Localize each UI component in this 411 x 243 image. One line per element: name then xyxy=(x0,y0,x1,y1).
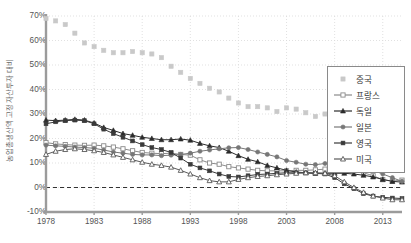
data-point xyxy=(111,145,115,149)
data-point xyxy=(313,114,317,118)
data-point xyxy=(140,153,144,157)
data-point xyxy=(121,147,125,151)
data-point xyxy=(82,41,86,45)
data-point xyxy=(83,119,87,123)
data-point xyxy=(169,64,173,68)
data-point xyxy=(111,51,115,55)
data-point xyxy=(150,52,154,56)
data-point xyxy=(159,163,164,168)
chart-legend[interactable]: 중국프랑스독일일본영국미국 xyxy=(327,66,405,173)
data-point xyxy=(159,154,163,158)
data-point xyxy=(54,19,58,23)
legend-marker-icon xyxy=(332,152,354,166)
data-point xyxy=(160,148,164,152)
data-point xyxy=(179,152,183,156)
data-point xyxy=(217,147,221,151)
data-point xyxy=(227,96,231,100)
data-point xyxy=(246,105,250,109)
data-point xyxy=(284,158,288,162)
data-point xyxy=(120,155,125,160)
data-point xyxy=(63,119,67,123)
data-point xyxy=(341,93,345,97)
legend-label: 중국 xyxy=(354,73,372,85)
data-point xyxy=(188,171,193,176)
legend-item-영국[interactable]: 영국 xyxy=(332,135,401,151)
data-point xyxy=(207,161,211,165)
data-point xyxy=(256,105,260,109)
data-point xyxy=(275,155,279,159)
data-point xyxy=(304,162,308,166)
data-point xyxy=(217,179,222,184)
data-point xyxy=(294,107,298,111)
data-point xyxy=(54,120,58,124)
data-point xyxy=(208,169,212,173)
data-point xyxy=(44,16,48,20)
data-point xyxy=(265,106,269,110)
legend-item-독일[interactable]: 독일 xyxy=(332,103,401,119)
legend-label: 독일 xyxy=(354,105,372,117)
legend-marker-icon xyxy=(332,136,354,150)
data-point xyxy=(227,175,231,179)
data-point xyxy=(92,122,96,126)
legend-item-미국[interactable]: 미국 xyxy=(332,151,401,167)
data-point xyxy=(236,101,240,105)
data-point xyxy=(150,153,154,157)
legend-item-일본[interactable]: 일본 xyxy=(332,119,401,135)
data-point xyxy=(130,49,134,53)
data-point xyxy=(236,166,240,170)
data-point xyxy=(140,51,144,55)
legend-label: 미국 xyxy=(354,153,372,165)
data-point xyxy=(179,70,183,74)
legend-label: 프랑스 xyxy=(354,89,380,101)
data-point xyxy=(207,86,211,90)
legend-item-중국[interactable]: 중국 xyxy=(332,71,401,87)
legend-marker-icon xyxy=(332,88,354,102)
data-point xyxy=(313,163,317,167)
data-point xyxy=(275,109,279,113)
data-point xyxy=(265,152,269,156)
data-point xyxy=(44,143,48,147)
data-point xyxy=(130,152,134,156)
data-point xyxy=(130,157,135,162)
data-point xyxy=(294,160,298,164)
data-point xyxy=(140,160,145,165)
chart-container: 농업총생산액 고정자산투자 대비 70%60%50%40%30%20%10%0%… xyxy=(0,0,411,243)
data-point xyxy=(217,172,221,176)
data-point xyxy=(188,76,192,80)
data-point xyxy=(73,31,77,35)
legend-label: 영국 xyxy=(354,137,372,149)
data-point xyxy=(207,178,212,183)
data-point xyxy=(256,168,260,172)
legend-marker-icon xyxy=(332,104,354,118)
data-point xyxy=(236,145,240,149)
data-point xyxy=(341,156,346,161)
data-point xyxy=(92,45,96,49)
data-point xyxy=(159,56,163,60)
data-point xyxy=(341,141,345,145)
data-point xyxy=(400,179,404,183)
data-point xyxy=(53,149,58,154)
data-point xyxy=(44,122,48,126)
data-point xyxy=(102,144,106,148)
data-point xyxy=(217,90,221,94)
legend-marker-icon xyxy=(332,72,354,86)
data-point xyxy=(198,149,202,153)
legend-item-프랑스[interactable]: 프랑스 xyxy=(332,87,401,103)
data-point xyxy=(179,156,183,160)
data-point xyxy=(361,190,366,195)
data-point xyxy=(54,144,58,148)
data-point xyxy=(198,81,202,85)
data-point xyxy=(207,148,211,152)
data-point xyxy=(226,179,231,184)
data-point xyxy=(150,146,154,150)
data-point xyxy=(169,165,174,170)
data-point xyxy=(198,158,202,162)
data-point xyxy=(256,150,260,154)
data-point xyxy=(73,118,77,122)
data-point xyxy=(217,162,221,166)
data-point xyxy=(169,151,173,155)
data-point xyxy=(140,143,144,147)
data-point xyxy=(246,147,250,151)
data-point xyxy=(111,132,115,136)
data-point xyxy=(351,185,356,190)
